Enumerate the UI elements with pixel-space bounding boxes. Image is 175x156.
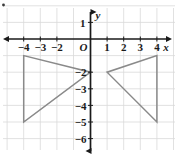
x-tick-label--4: −4 — [18, 41, 30, 53]
y-tick-labels: 1 −2 −3 −4 −5 −6 — [75, 17, 87, 145]
x-tick-label-4: 4 — [154, 41, 160, 53]
coordinate-plane-figure: −4 −3 −2 1 2 3 4 1 −2 −3 −4 −5 −6 O x y — [0, 0, 175, 156]
scan-speck-mark — [2, 4, 5, 7]
graph-svg: −4 −3 −2 1 2 3 4 1 −2 −3 −4 −5 −6 O x y — [0, 0, 175, 156]
y-tick-label--6: −6 — [75, 133, 87, 145]
y-tick-label--4: −4 — [75, 100, 87, 112]
y-tick-label-1: 1 — [80, 17, 86, 29]
x-tick-label-2: 2 — [121, 41, 127, 53]
y-tick-label--5: −5 — [75, 116, 87, 128]
y-axis-name-label: y — [94, 9, 101, 21]
x-tick-label-3: 3 — [138, 41, 144, 53]
y-tick-label--2: −2 — [75, 66, 87, 78]
x-tick-labels: −4 −3 −2 1 2 3 4 — [18, 41, 160, 53]
y-tick-label--3: −3 — [75, 83, 87, 95]
x-tick-label--2: −2 — [51, 41, 63, 53]
origin-label: O — [80, 41, 88, 53]
x-tick-label--3: −3 — [34, 41, 46, 53]
x-axis-name-label: x — [162, 41, 169, 53]
x-tick-label-1: 1 — [104, 41, 110, 53]
grid-lines — [3, 6, 175, 150]
